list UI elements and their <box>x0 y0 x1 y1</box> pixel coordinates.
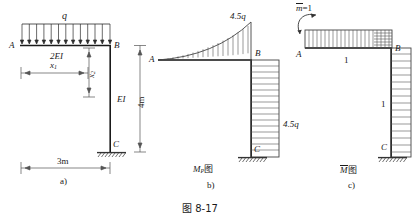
dimension-label-4m: 4m <box>137 96 146 108</box>
diagram-b-mp <box>158 22 279 162</box>
diagram-c-mbar <box>297 13 411 162</box>
moment-rect-column <box>251 60 279 157</box>
node-label-b-diagram-a: B <box>114 41 120 50</box>
dimension-label-3m: 3m <box>57 157 69 166</box>
dimension-label-x2: x2 <box>87 71 97 78</box>
distributed-load-arrows <box>20 24 111 44</box>
moment-value-column-c: 1 <box>381 100 386 109</box>
moment-value-beam-c: 1 <box>344 56 349 65</box>
diagram-a-frame <box>20 24 146 174</box>
column-stiffness-label: EI <box>117 95 126 104</box>
panel-label-b: b) <box>207 180 215 190</box>
moment-hatch-column <box>251 66 279 150</box>
moment-value-column-b: 4.5q <box>283 120 299 129</box>
load-label-q: q <box>62 11 67 21</box>
unit-moment-label: m=1 <box>296 3 312 13</box>
moment-value-beam-b: 4.5q <box>230 12 246 21</box>
node-label-c-diagram-b: C <box>254 145 260 154</box>
node-label-b-diagram-b: B <box>255 49 261 58</box>
node-label-a-diagram-c: A <box>296 50 302 59</box>
support-hatch-c <box>379 158 407 162</box>
moment-hatch-beam <box>163 26 248 60</box>
diagram-title-mp: MP图 <box>193 165 213 175</box>
figure-caption: 图 8-17 <box>182 200 218 215</box>
dimension-label-x1: x1 <box>50 61 57 71</box>
unit-moment-tail <box>297 30 301 34</box>
panel-label-a: a) <box>60 176 67 186</box>
support-hatch-a <box>98 153 126 157</box>
node-label-a-diagram-b: A <box>149 55 155 64</box>
moment-curve-beam <box>158 22 251 60</box>
node-label-c-diagram-c: C <box>381 143 387 152</box>
node-label-b-diagram-c: B <box>395 44 401 53</box>
panel-label-c: c) <box>348 180 355 190</box>
node-label-a-diagram-a: A <box>9 41 15 50</box>
node-label-c-diagram-a: C <box>113 140 119 149</box>
moment-hatch-column-c <box>391 54 411 152</box>
diagram-title-mbar: M图 <box>340 165 357 175</box>
support-hatch-b <box>239 158 267 162</box>
moment-rect-column-c <box>391 48 411 157</box>
